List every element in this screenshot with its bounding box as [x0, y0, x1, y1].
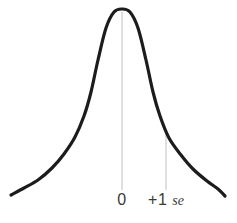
- axis-label-plus-one-se-unit: se: [172, 193, 184, 208]
- axis-label-plus-one-se-prefix: +1: [148, 191, 172, 208]
- axis-label-plus-one-se: +1 se: [148, 192, 184, 208]
- distribution-curve: [11, 9, 225, 196]
- axis-label-zero: 0: [117, 192, 126, 208]
- bell-curve-plot: [0, 0, 237, 223]
- bell-curve-figure: 0 +1 se: [0, 0, 237, 223]
